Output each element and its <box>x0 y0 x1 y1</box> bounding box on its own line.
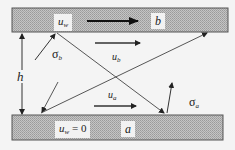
u-a-label: ua <box>108 90 117 102</box>
a-subscript: a <box>113 94 117 102</box>
a-subscript: a <box>195 102 199 110</box>
w-subscript: w <box>64 21 69 29</box>
h-symbol: h <box>17 69 24 84</box>
slit-flow-diagram <box>0 0 235 150</box>
sigma-a-arrow <box>167 83 172 113</box>
a-symbol: a <box>125 122 131 136</box>
incoming-bottom-arrow <box>42 82 58 112</box>
gap-height-label: h <box>17 70 24 83</box>
bottom-wall-name-label: a <box>121 121 135 137</box>
zero-value: = 0 <box>69 122 86 134</box>
top-wall-velocity-label: uw <box>54 14 72 31</box>
u-b-label: ub <box>112 52 121 64</box>
bottom-wall <box>12 115 223 140</box>
b-subscript: b <box>58 54 62 62</box>
top-wall-name-label: b <box>151 13 165 29</box>
trajectory-up <box>41 33 207 113</box>
sigma-b-label: σb <box>52 48 62 62</box>
b-symbol: b <box>155 14 161 28</box>
bottom-wall-velocity-label: uw = 0 <box>55 121 90 138</box>
b-subscript: b <box>117 56 121 64</box>
sigma-a-label: σa <box>189 96 199 110</box>
